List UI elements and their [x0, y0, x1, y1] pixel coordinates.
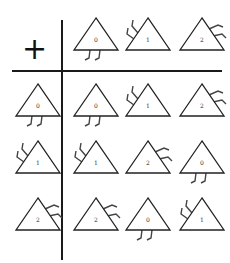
legged-triangle-icon: 1 — [176, 192, 228, 244]
legged-triangle-icon: 2 — [12, 192, 64, 244]
svg-text:2: 2 — [200, 36, 204, 43]
svg-text:1: 1 — [146, 102, 150, 109]
cayley-table: + 012012012120201 — [0, 0, 230, 263]
svg-text:1: 1 — [200, 216, 204, 223]
legged-triangle-icon: 1 — [122, 12, 174, 64]
svg-text:0: 0 — [94, 102, 98, 109]
legged-triangle-icon: 0 — [12, 78, 64, 130]
legged-triangle-icon: 0 — [70, 78, 122, 130]
table-cell: 0 — [176, 135, 228, 187]
table-cell: 2 — [122, 135, 174, 187]
header-col-cell: 2 — [12, 192, 64, 244]
legged-triangle-icon: 2 — [122, 135, 174, 187]
legged-triangle-icon: 2 — [70, 192, 122, 244]
svg-text:1: 1 — [146, 36, 150, 43]
svg-text:1: 1 — [94, 159, 98, 166]
header-row-cell: 1 — [122, 12, 174, 64]
svg-text:0: 0 — [94, 36, 98, 43]
svg-text:2: 2 — [94, 216, 98, 223]
svg-text:2: 2 — [146, 159, 150, 166]
header-col-cell: 0 — [12, 78, 64, 130]
legged-triangle-icon: 2 — [176, 12, 228, 64]
legged-triangle-icon: 1 — [70, 135, 122, 187]
legged-triangle-icon: 0 — [176, 135, 228, 187]
header-row-cell: 2 — [176, 12, 228, 64]
legged-triangle-icon: 0 — [122, 192, 174, 244]
table-cell: 1 — [122, 78, 174, 130]
legged-triangle-icon: 1 — [12, 135, 64, 187]
header-col-cell: 1 — [12, 135, 64, 187]
svg-text:0: 0 — [36, 102, 40, 109]
table-cell: 1 — [176, 192, 228, 244]
svg-text:2: 2 — [200, 102, 204, 109]
table-cell: 0 — [122, 192, 174, 244]
legged-triangle-icon: 0 — [70, 12, 122, 64]
table-cell: 1 — [70, 135, 122, 187]
table-cell: 0 — [70, 78, 122, 130]
table-cell: 2 — [70, 192, 122, 244]
legged-triangle-icon: 2 — [176, 78, 228, 130]
svg-text:2: 2 — [36, 216, 40, 223]
header-row-cell: 0 — [70, 12, 122, 64]
legged-triangle-icon: 1 — [122, 78, 174, 130]
operator-symbol: + — [22, 34, 47, 64]
svg-text:0: 0 — [146, 216, 150, 223]
horizontal-divider — [12, 70, 222, 72]
svg-text:0: 0 — [200, 159, 204, 166]
svg-text:1: 1 — [36, 159, 40, 166]
table-cell: 2 — [176, 78, 228, 130]
